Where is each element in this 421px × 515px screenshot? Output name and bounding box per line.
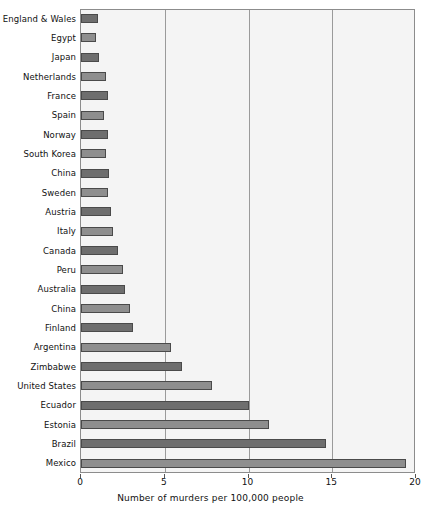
category-label: France [0, 91, 76, 101]
category-label: Argentina [0, 342, 76, 352]
category-label: Ecuador [0, 400, 76, 410]
category-label: England & Wales [0, 14, 76, 24]
x-tick-label: 10 [242, 477, 253, 488]
bar-row [81, 223, 415, 242]
bar [81, 111, 104, 120]
category-label: Austria [0, 207, 76, 217]
bar-row [81, 435, 415, 454]
bar [81, 420, 269, 429]
bar [81, 285, 125, 294]
category-label: Finland [0, 323, 76, 333]
bar [81, 246, 118, 255]
x-tick-label: 0 [77, 477, 83, 488]
bar-row [81, 68, 415, 87]
category-axis-labels: England & WalesEgyptJapanNetherlandsFran… [0, 9, 76, 473]
bar [81, 188, 108, 197]
category-label: Mexico [0, 458, 76, 468]
bar [81, 149, 106, 158]
bar [81, 72, 106, 81]
bar [81, 14, 98, 23]
bar [81, 207, 111, 216]
category-label: Brazil [0, 439, 76, 449]
bar-row [81, 339, 415, 358]
category-label: Norway [0, 130, 76, 140]
category-label: Egypt [0, 33, 76, 43]
bar-row [81, 145, 415, 164]
bar [81, 459, 406, 468]
bar-row [81, 203, 415, 222]
plot-area [80, 9, 415, 473]
bar-row [81, 416, 415, 435]
bar-row [81, 165, 415, 184]
x-tick-label: 20 [409, 477, 420, 488]
bar [81, 381, 212, 390]
bar [81, 304, 130, 313]
bar-row [81, 29, 415, 48]
bar [81, 265, 123, 274]
bar-row [81, 281, 415, 300]
category-label: Australia [0, 284, 76, 294]
category-label: Spain [0, 110, 76, 120]
bar-row [81, 455, 415, 473]
category-label: Estonia [0, 420, 76, 430]
category-label: Japan [0, 52, 76, 62]
bar [81, 169, 109, 178]
bar-row [81, 184, 415, 203]
bar-row [81, 49, 415, 68]
category-label: Sweden [0, 188, 76, 198]
x-axis-ticks: 05101520 [80, 474, 415, 488]
bar-row [81, 358, 415, 377]
bar [81, 362, 182, 371]
bar [81, 401, 249, 410]
category-label: Italy [0, 226, 76, 236]
category-label: United States [0, 381, 76, 391]
category-label: China [0, 304, 76, 314]
bar-row [81, 300, 415, 319]
bar [81, 227, 113, 236]
bar [81, 343, 171, 352]
bar [81, 439, 326, 448]
x-tick-label: 5 [161, 477, 167, 488]
x-axis-title: Number of murders per 100,000 people [0, 492, 421, 504]
bar [81, 130, 108, 139]
bar-row [81, 87, 415, 106]
bar-row [81, 261, 415, 280]
bar [81, 91, 108, 100]
bar [81, 323, 133, 332]
category-label: Netherlands [0, 72, 76, 82]
category-label: South Korea [0, 149, 76, 159]
x-tick-label: 15 [326, 477, 337, 488]
category-label: Canada [0, 246, 76, 256]
bar-row [81, 319, 415, 338]
category-label: China [0, 168, 76, 178]
bar-chart: England & WalesEgyptJapanNetherlandsFran… [0, 0, 421, 515]
category-label: Peru [0, 265, 76, 275]
bar-row [81, 377, 415, 396]
bar [81, 53, 99, 62]
bar-row [81, 242, 415, 261]
bar-row [81, 126, 415, 145]
bar [81, 33, 96, 42]
category-label: Zimbabwe [0, 362, 76, 372]
bar-row [81, 397, 415, 416]
bar-rows [81, 10, 414, 472]
bar-row [81, 107, 415, 126]
bar-row [81, 10, 415, 29]
